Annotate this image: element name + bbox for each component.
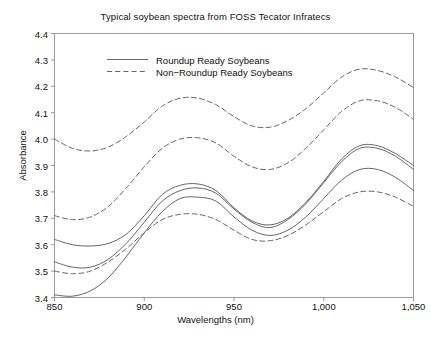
spectrum-line xyxy=(55,144,414,246)
x-tick-label: 850 xyxy=(47,301,63,312)
spectrum-line xyxy=(55,191,414,274)
y-tick-label: 4.3 xyxy=(14,54,48,65)
spectrum-line xyxy=(55,168,414,296)
x-tick-label: 900 xyxy=(136,301,152,312)
plot-area xyxy=(0,0,431,339)
spectrum-line xyxy=(55,100,414,220)
x-tick-label: 950 xyxy=(226,301,242,312)
legend-label: Non−Roundup Ready Soybeans xyxy=(156,66,293,77)
y-tick-label: 3.7 xyxy=(14,213,48,224)
y-tick-label: 3.6 xyxy=(14,239,48,250)
y-tick-label: 3.8 xyxy=(14,186,48,197)
y-tick-label: 4.0 xyxy=(14,134,48,145)
y-tick-label: 4.1 xyxy=(14,107,48,118)
x-tick-label: 1,050 xyxy=(402,301,426,312)
spectra-chart: Typical soybean spectra from FOSS Tecato… xyxy=(0,0,431,339)
y-tick-label: 3.5 xyxy=(14,266,48,277)
x-tick-label: 1,000 xyxy=(312,301,336,312)
legend-label: Roundup Ready Soybeans xyxy=(156,54,270,65)
y-tick-label: 3.9 xyxy=(14,160,48,171)
y-tick-label: 3.4 xyxy=(14,292,48,303)
y-tick-label: 4.2 xyxy=(14,81,48,92)
spectrum-line xyxy=(55,69,414,151)
y-tick-label: 4.4 xyxy=(14,28,48,39)
